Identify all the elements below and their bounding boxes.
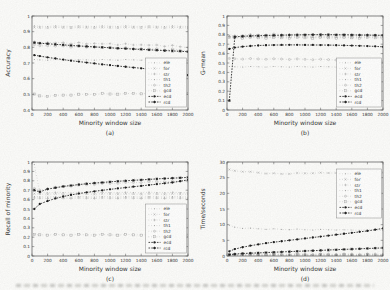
- x-tick-label: 200: [43, 112, 51, 117]
- y-tick-label: 0.6: [23, 197, 30, 202]
- legend-label-ele: ele: [164, 206, 171, 211]
- legend-label-rcd: rcd: [355, 100, 362, 105]
- legend-label-gcd: gcd: [355, 88, 363, 93]
- series-for: [33, 193, 189, 196]
- x-tick-label: 2000: [183, 112, 194, 117]
- x-tick-label: 1200: [120, 258, 131, 263]
- x-tick-label: 200: [238, 112, 246, 117]
- y-tick-label: 0.4: [218, 70, 225, 75]
- x-tick-label: 1400: [331, 112, 342, 117]
- legend-label-gcd: gcd: [355, 199, 363, 204]
- legend: eleforstrth1th2gcdecdrcd: [337, 169, 382, 218]
- y-tick-label: 0.6: [23, 76, 30, 81]
- illegible-caption-line: [16, 284, 374, 287]
- y-axis-label: Recall of minority: [4, 182, 12, 235]
- legend-label-th1: th1: [355, 188, 362, 193]
- x-tick-label: 800: [90, 112, 98, 117]
- x-tick-label: 200: [43, 258, 51, 263]
- legend-label-rcd: rcd: [164, 100, 171, 105]
- y-tick-label: 0.7: [23, 61, 30, 66]
- x-tick-label: 1600: [346, 258, 357, 263]
- x-tick-label: 600: [270, 258, 278, 263]
- x-tick-label: 1600: [346, 112, 357, 117]
- x-tick-label: 1000: [300, 258, 311, 263]
- x-tick-label: 600: [75, 258, 83, 263]
- legend-label-th1: th1: [164, 223, 171, 228]
- legend-label-for: for: [355, 66, 361, 71]
- legend-label-ecd: ecd: [164, 240, 172, 245]
- x-tick-label: 1000: [300, 112, 311, 117]
- y-tick-label: 0.7: [218, 42, 225, 47]
- y-tick-label: 1: [27, 14, 30, 19]
- subplot-svg: 02004006008001000120014001600180020000.4…: [0, 0, 195, 145]
- x-tick-label: 400: [59, 112, 67, 117]
- y-tick-label: 1: [222, 14, 225, 19]
- y-tick-label: 0.2: [218, 89, 225, 94]
- legend-label-str: str: [355, 72, 361, 77]
- subplot-b-gmean: 020040060080010001200140016001800200000.…: [195, 0, 390, 145]
- x-tick-label: 800: [90, 258, 98, 263]
- x-tick-label: 200: [238, 258, 246, 263]
- legend-label-ele: ele: [355, 171, 362, 176]
- legend-label-ele: ele: [355, 60, 362, 65]
- y-tick-label: 15: [220, 207, 226, 212]
- series-for: [33, 26, 189, 29]
- x-tick-label: 600: [270, 112, 278, 117]
- legend-label-ecd: ecd: [355, 94, 363, 99]
- x-tick-label: 1600: [151, 112, 162, 117]
- y-tick-label: 0.1: [218, 98, 225, 103]
- legend-label-th1: th1: [164, 77, 171, 82]
- x-tick-label: 1800: [167, 112, 178, 117]
- x-tick-label: 1400: [136, 112, 147, 117]
- x-tick-label: 1800: [167, 258, 178, 263]
- y-tick-label: 0.5: [23, 92, 30, 97]
- y-tick-label: 20: [220, 191, 226, 196]
- y-tick-label: 0.8: [23, 45, 30, 50]
- series-ecd: [228, 44, 384, 50]
- x-axis-label: Minority window size: [274, 265, 337, 273]
- legend-label-gcd: gcd: [164, 88, 172, 93]
- legend-label-gcd: gcd: [164, 234, 172, 239]
- subplot-label: (a): [106, 129, 114, 136]
- y-tick-label: 0.9: [218, 23, 225, 28]
- x-tick-label: 1400: [331, 258, 342, 263]
- subplot-a-accuracy: 02004006008001000120014001600180020000.4…: [0, 0, 195, 145]
- legend-label-ecd: ecd: [164, 94, 172, 99]
- y-tick-label: 0.9: [23, 29, 30, 34]
- x-tick-label: 0: [31, 258, 34, 263]
- y-tick-label: 0.5: [23, 207, 30, 212]
- y-tick-label: 0.6: [218, 51, 225, 56]
- legend-label-th2: th2: [355, 83, 362, 88]
- x-tick-label: 1600: [151, 258, 162, 263]
- legend: eleforstrth1th2gcdecdrcd: [146, 204, 187, 253]
- y-tick-label: 0.1: [23, 244, 30, 249]
- y-axis-label: Time/seconds: [199, 188, 206, 230]
- x-tick-label: 400: [59, 258, 67, 263]
- x-tick-label: 0: [31, 112, 34, 117]
- subplot-label: (b): [301, 129, 310, 136]
- x-tick-label: 800: [285, 112, 293, 117]
- y-tick-label: 1: [27, 160, 30, 165]
- subplot-svg: 020040060080010001200140016001800200000.…: [0, 146, 195, 290]
- legend-label-str: str: [164, 218, 170, 223]
- x-axis-label: Minority window size: [79, 119, 142, 127]
- x-tick-label: 1000: [105, 112, 116, 117]
- subplot-svg: 020040060080010001200140016001800200000.…: [195, 0, 390, 145]
- x-tick-label: 1800: [362, 112, 373, 117]
- x-tick-label: 800: [285, 258, 293, 263]
- x-axis-label: Minority window size: [79, 265, 142, 273]
- x-tick-label: 2000: [378, 112, 389, 117]
- legend-label-ecd: ecd: [355, 205, 363, 210]
- legend-label-str: str: [355, 183, 361, 188]
- legend-label-for: for: [164, 212, 170, 217]
- legend-label-rcd: rcd: [355, 211, 362, 216]
- subplot-label: (d): [301, 275, 310, 282]
- x-tick-label: 0: [226, 112, 229, 117]
- y-tick-label: 0.8: [218, 32, 225, 37]
- series-gcd: [228, 36, 384, 39]
- x-tick-label: 1000: [105, 258, 116, 263]
- x-tick-label: 400: [254, 112, 262, 117]
- legend-label-ele: ele: [164, 60, 171, 65]
- x-tick-label: 0: [226, 258, 229, 263]
- legend-label-for: for: [164, 66, 170, 71]
